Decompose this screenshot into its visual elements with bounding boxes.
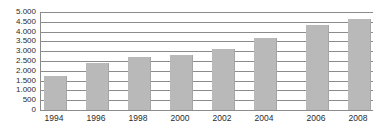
bar-chart: 05001.0001.5002.0002.5003.0003.5004.0004… <box>0 0 376 134</box>
bar <box>254 38 277 110</box>
bar <box>86 63 109 110</box>
x-tick-label: 2002 <box>213 113 232 123</box>
bars-layer <box>41 12 373 110</box>
x-axis: 19941996199820002002200420062008 <box>40 113 372 127</box>
y-axis: 05001.0001.5002.0002.5003.0003.5004.0004… <box>0 12 38 110</box>
x-tick-label: 2000 <box>171 113 190 123</box>
bar <box>170 55 193 110</box>
plot-area <box>40 12 373 111</box>
y-tick-label: 1.500 <box>16 77 36 85</box>
x-tick-label: 1996 <box>87 113 106 123</box>
bar <box>348 19 371 110</box>
y-tick-label: 2.500 <box>16 57 36 65</box>
bar <box>212 49 235 110</box>
bar <box>44 76 67 110</box>
y-tick-label: 500 <box>23 96 36 104</box>
y-tick-label: 3.500 <box>16 37 36 45</box>
y-tick-label: 4.000 <box>16 28 36 36</box>
x-tick-label: 2004 <box>255 113 274 123</box>
y-tick-label: 2.000 <box>16 67 36 75</box>
y-tick-label: 1.000 <box>16 86 36 94</box>
y-tick-label: 3.000 <box>16 47 36 55</box>
x-tick-label: 1998 <box>129 113 148 123</box>
bar <box>306 25 329 110</box>
y-tick-label: 0 <box>32 106 36 114</box>
y-tick-label: 5.000 <box>16 8 36 16</box>
y-tick-label: 4.500 <box>16 18 36 26</box>
bar <box>128 57 151 110</box>
x-tick-label: 1994 <box>45 113 64 123</box>
x-tick-label: 2006 <box>307 113 326 123</box>
x-tick-label: 2008 <box>349 113 368 123</box>
